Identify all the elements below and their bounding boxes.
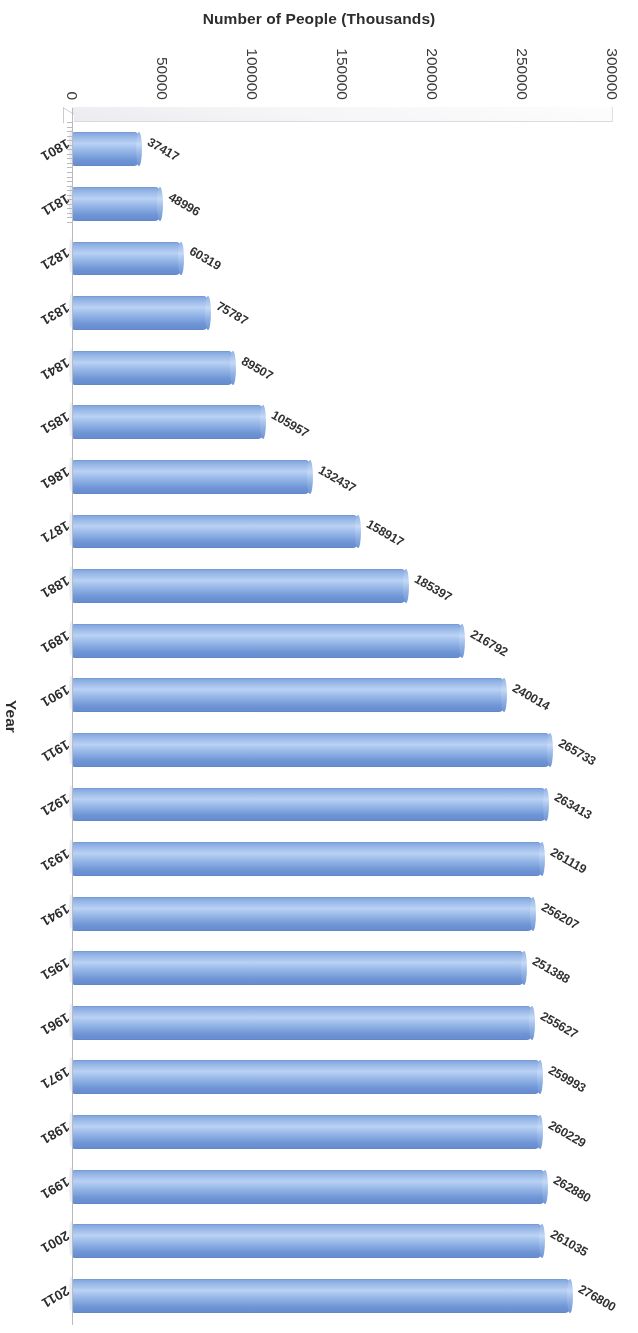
value-axis-title-label: Number of People (Thousands): [203, 10, 436, 28]
category-axis-label: 1841: [38, 355, 72, 383]
bar-group: 48996: [72, 177, 612, 232]
category-label-cell: 1891: [28, 613, 74, 668]
bar[interactable]: 89507: [72, 351, 233, 385]
bar[interactable]: 260229: [72, 1115, 540, 1149]
bar-group: 262880: [72, 1159, 612, 1214]
bar[interactable]: 60319: [72, 242, 181, 276]
bar-group: 251388: [72, 941, 612, 996]
bar-data-label: 240014: [510, 681, 552, 713]
bar-group: 216792: [72, 613, 612, 668]
category-label-cell: 1901: [28, 668, 74, 723]
bar-group: 259993: [72, 1050, 612, 1105]
bar-group: 60319: [72, 231, 612, 286]
bar-data-label: 105957: [269, 408, 311, 440]
bar-data-label: 132437: [316, 463, 358, 495]
category-label-cell: 1881: [28, 559, 74, 614]
value-axis-tick-label: 150000: [333, 48, 351, 100]
bar-data-label: 261119: [548, 845, 589, 877]
bar[interactable]: 263413: [72, 788, 546, 822]
bar-series: 3741748996603197578789507105957132437158…: [72, 108, 612, 1325]
bar[interactable]: 261035: [72, 1224, 542, 1258]
bar-data-label: 255627: [538, 1009, 580, 1041]
category-axis-label: 1951: [38, 955, 72, 983]
bar[interactable]: 262880: [72, 1170, 545, 1204]
bar-data-label: 185397: [412, 572, 454, 604]
bar[interactable]: 261119: [72, 842, 542, 876]
bar[interactable]: 276800: [72, 1279, 570, 1313]
bar-group: 185397: [72, 559, 612, 614]
value-axis-tick-label: 300000: [603, 48, 621, 100]
category-axis-label: 1871: [38, 518, 72, 546]
category-label-cell: 1931: [28, 832, 74, 887]
category-axis-label: 1991: [38, 1174, 72, 1202]
category-axis-label: 1971: [38, 1064, 72, 1092]
bar-data-label: 48996: [166, 190, 202, 219]
value-axis-ticks: 300000250000200000150000100000500000: [0, 30, 638, 104]
category-axis-label: 2001: [38, 1228, 72, 1256]
category-label-cell: 1831: [28, 286, 74, 341]
bar[interactable]: 48996: [72, 187, 160, 221]
bar-data-label: 75787: [214, 299, 250, 328]
bar[interactable]: 216792: [72, 624, 462, 658]
category-label-cell: 1821: [28, 231, 74, 286]
bar[interactable]: 132437: [72, 460, 310, 494]
category-label-cell: 2011: [28, 1268, 74, 1323]
category-label-cell: 1961: [28, 996, 74, 1051]
bar[interactable]: 256207: [72, 897, 533, 931]
category-axis-label: 1981: [38, 1119, 72, 1147]
bar-data-label: 260229: [546, 1118, 588, 1150]
bar[interactable]: 251388: [72, 951, 524, 985]
category-axis-label: 1901: [38, 682, 72, 710]
bar-group: 255627: [72, 996, 612, 1051]
bar-data-label: 265733: [556, 736, 598, 768]
bar-chart: Number of People (Thousands) 30000025000…: [0, 0, 638, 1333]
category-axis-label: 1811: [39, 191, 72, 219]
category-label-cell: 1971: [28, 1050, 74, 1105]
category-axis-label: 1891: [38, 628, 72, 656]
bar-group: 75787: [72, 286, 612, 341]
category-label-cell: 1921: [28, 777, 74, 832]
value-axis-tick-label: 50000: [153, 57, 171, 100]
bar-group: 256207: [72, 886, 612, 941]
bar-data-label: 259993: [546, 1063, 588, 1095]
bar-group: 132437: [72, 450, 612, 505]
bar-data-label: 261035: [548, 1227, 590, 1259]
bar-data-label: 276800: [576, 1282, 618, 1314]
bar-group: 240014: [72, 668, 612, 723]
bar[interactable]: 240014: [72, 678, 504, 712]
bar[interactable]: 259993: [72, 1060, 540, 1094]
category-axis-label: 1911: [39, 737, 72, 765]
category-axis-label: 1861: [38, 464, 72, 492]
category-label-cell: 1941: [28, 886, 74, 941]
bar-group: 260229: [72, 1105, 612, 1160]
category-axis-label: 1931: [38, 846, 72, 874]
bar[interactable]: 158917: [72, 515, 358, 549]
value-axis-tick-label: 200000: [423, 48, 441, 100]
bar[interactable]: 185397: [72, 569, 406, 603]
value-axis-tick-label: 250000: [513, 48, 531, 100]
category-label-cell: 1911: [28, 723, 74, 778]
category-label-cell: 2001: [28, 1214, 74, 1269]
bar-group: 89507: [72, 340, 612, 395]
category-axis-labels: 1801181118211831184118511861187118811891…: [28, 108, 74, 1325]
bar-data-label: 263413: [552, 790, 594, 822]
category-axis-label: 1851: [38, 409, 72, 437]
category-label-cell: 1801: [28, 122, 74, 177]
bar-group: 37417: [72, 122, 612, 177]
bar[interactable]: 37417: [72, 132, 139, 166]
category-label-cell: 1861: [28, 450, 74, 505]
category-axis-label: 1821: [38, 245, 72, 273]
value-axis-title: Number of People (Thousands): [0, 6, 638, 32]
bar-data-label: 256207: [539, 899, 581, 931]
category-axis-label: 1831: [38, 300, 72, 328]
bar-data-label: 262880: [551, 1172, 593, 1204]
plot-area: 3741748996603197578789507105957132437158…: [72, 108, 612, 1325]
bar[interactable]: 105957: [72, 405, 263, 439]
category-label-cell: 1841: [28, 340, 74, 395]
bar[interactable]: 265733: [72, 733, 550, 767]
category-label-cell: 1951: [28, 941, 74, 996]
bar[interactable]: 255627: [72, 1006, 532, 1040]
category-axis-label: 1921: [38, 791, 72, 819]
bar-group: 265733: [72, 723, 612, 778]
bar[interactable]: 75787: [72, 296, 208, 330]
